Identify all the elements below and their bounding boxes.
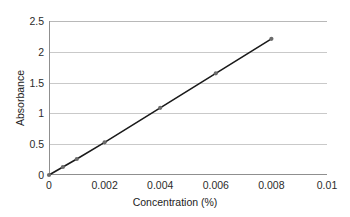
- y-axis-tick-label: 1.5: [29, 77, 44, 89]
- absorbance-concentration-chart: 00.511.522.5 00.0020.0040.0060.0080.01 C…: [0, 0, 350, 217]
- data-point-marker: [158, 106, 162, 110]
- x-axis-title: Concentration (%): [0, 196, 350, 208]
- x-axis-tick-label: 0.006: [203, 179, 229, 191]
- x-axis-tick-label: 0.01: [317, 179, 337, 191]
- data-series-layer: [49, 21, 327, 175]
- data-point-marker: [61, 165, 65, 169]
- y-axis-title: Absorbance: [10, 21, 31, 175]
- x-axis-tick-label: 0.002: [91, 179, 117, 191]
- data-point-marker: [269, 37, 273, 41]
- y-axis-tick-label: 2: [38, 46, 44, 58]
- data-point-marker: [214, 71, 218, 75]
- plot-area: 00.511.522.5 00.0020.0040.0060.0080.01: [49, 21, 327, 175]
- data-point-marker: [47, 173, 51, 177]
- data-point-marker: [75, 157, 79, 161]
- data-point-marker: [103, 140, 107, 144]
- y-axis-tick-label: 0: [38, 169, 44, 181]
- x-axis-tick-label: 0: [46, 179, 52, 191]
- y-axis-tick-label: 1: [38, 107, 44, 119]
- y-axis-tick-label: 0.5: [29, 138, 44, 150]
- x-axis-tick-label: 0.004: [147, 179, 173, 191]
- y-axis-tick-label: 2.5: [29, 15, 44, 27]
- x-axis-tick-label: 0.008: [258, 179, 284, 191]
